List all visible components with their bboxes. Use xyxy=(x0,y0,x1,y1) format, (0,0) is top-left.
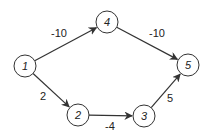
node-label: 5 xyxy=(185,59,192,71)
node-1: 1 xyxy=(14,55,36,77)
edge-1-to-4: -10 xyxy=(35,27,97,61)
edge-4-to-5: -10 xyxy=(117,27,178,59)
graph-diagram: -10-102-45 12345 xyxy=(0,0,209,139)
node-3: 3 xyxy=(133,105,155,127)
edge-weight-label: 5 xyxy=(167,92,173,104)
edge-arrow xyxy=(117,27,178,59)
edge-arrow xyxy=(89,115,132,116)
edge-weight-label: -10 xyxy=(149,27,165,39)
nodes: 12345 xyxy=(14,11,199,127)
edge-weight-label: -4 xyxy=(105,120,115,132)
edges: -10-102-45 xyxy=(33,27,180,132)
node-label: 1 xyxy=(22,60,28,72)
edge-arrow xyxy=(151,74,180,108)
edge-weight-label: -10 xyxy=(51,27,67,39)
edge-1-to-2: 2 xyxy=(33,73,69,106)
edge-weight-label: 2 xyxy=(40,90,46,102)
node-4: 4 xyxy=(96,11,118,33)
node-2: 2 xyxy=(67,104,89,126)
edge-3-to-5: 5 xyxy=(151,74,180,108)
node-label: 2 xyxy=(74,109,81,121)
node-5: 5 xyxy=(177,54,199,76)
node-label: 3 xyxy=(141,110,148,122)
edge-2-to-3: -4 xyxy=(89,115,132,132)
node-label: 4 xyxy=(104,16,110,28)
edge-arrow xyxy=(33,73,69,106)
